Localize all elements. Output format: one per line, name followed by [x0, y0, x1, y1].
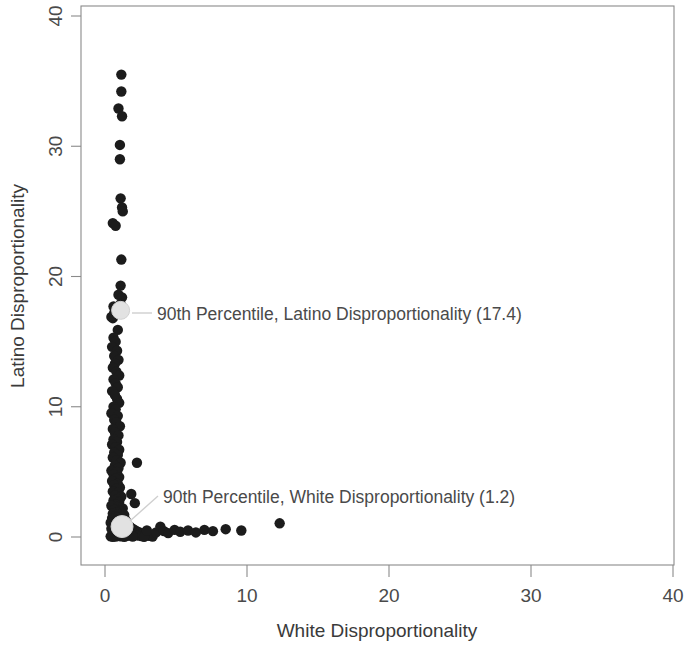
- data-point: [116, 69, 126, 79]
- scatter-plot-svg: 010203040 010203040 90th Percentile, Lat…: [0, 0, 686, 651]
- y-axis-tick-labels: 010203040: [45, 5, 66, 542]
- data-point: [110, 221, 120, 231]
- y-tick-label-40: 40: [45, 5, 66, 26]
- data-point: [115, 280, 125, 290]
- x-tick-label-30: 30: [520, 585, 541, 606]
- annotations-layer: 90th Percentile, Latino Disproportionali…: [111, 301, 522, 537]
- data-point: [208, 526, 218, 536]
- y-axis-title: Latino Disproportionality: [7, 184, 28, 388]
- annotation-label-white-percentile: 90th Percentile, White Disproportionalit…: [163, 487, 515, 507]
- data-point: [115, 154, 125, 164]
- x-axis-ticks: [105, 565, 673, 577]
- y-tick-label-10: 10: [45, 396, 66, 417]
- y-tick-label-30: 30: [45, 136, 66, 157]
- y-tick-label-20: 20: [45, 266, 66, 287]
- data-point: [115, 140, 125, 150]
- plot-frame: [81, 6, 674, 565]
- highlight-marker-latino-percentile: [112, 301, 130, 319]
- y-axis-ticks: [71, 16, 81, 537]
- x-axis-title: White Disproportionality: [277, 620, 478, 641]
- x-tick-label-20: 20: [378, 585, 399, 606]
- x-tick-label-0: 0: [100, 585, 111, 606]
- y-tick-label-0: 0: [45, 532, 66, 543]
- x-tick-label-10: 10: [236, 585, 257, 606]
- data-point: [116, 254, 126, 264]
- data-point: [142, 525, 152, 535]
- data-point: [118, 206, 128, 216]
- data-point: [117, 111, 127, 121]
- data-point: [132, 458, 142, 468]
- chart-figure: 010203040 010203040 90th Percentile, Lat…: [0, 0, 686, 651]
- annotation-label-latino-percentile: 90th Percentile, Latino Disproportionali…: [157, 304, 522, 324]
- x-tick-label-40: 40: [662, 585, 683, 606]
- data-point: [274, 518, 284, 528]
- x-axis-tick-labels: 010203040: [100, 585, 684, 606]
- data-point: [130, 498, 140, 508]
- data-point: [116, 86, 126, 96]
- data-point: [236, 525, 246, 535]
- data-point: [115, 193, 125, 203]
- highlight-marker-white-percentile: [111, 516, 133, 538]
- data-point: [126, 489, 136, 499]
- data-point: [221, 524, 231, 534]
